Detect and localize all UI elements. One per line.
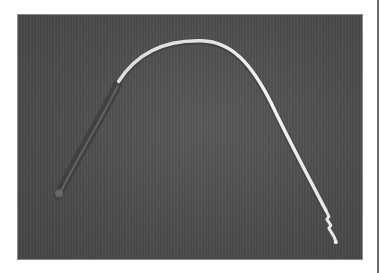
probe-plug-tip [326, 210, 336, 241]
probe-illustration [18, 15, 362, 259]
probe-handle-end [55, 190, 63, 198]
product-photo [17, 14, 363, 260]
probe-cable [119, 42, 326, 212]
page-edge-divider [377, 0, 379, 273]
